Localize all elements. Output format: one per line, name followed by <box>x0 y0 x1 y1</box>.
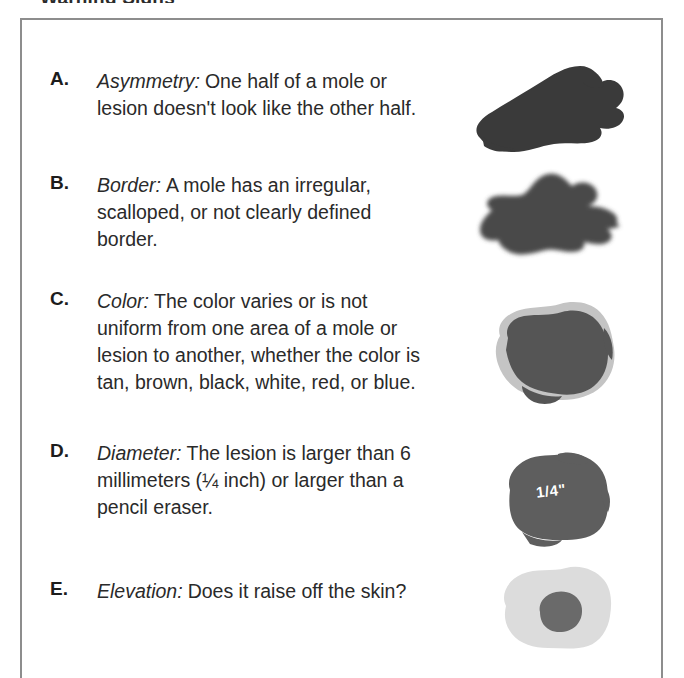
item-text-d: Diameter:The lesion is larger than 6 mil… <box>97 440 427 521</box>
elevated-mole-illustration <box>462 550 662 670</box>
item-letter-b: B. <box>50 172 69 194</box>
large-diameter-mole-illustration: 1/4" <box>462 434 662 554</box>
item-term-a: Asymmetry: <box>97 70 200 92</box>
cropped-page-heading: Warning Signs <box>40 0 640 3</box>
item-term-b: Border: <box>97 174 161 196</box>
item-term-d: Diameter: <box>97 442 182 464</box>
item-text-c: Color:The color varies or is not uniform… <box>97 288 427 396</box>
item-letter-e: E. <box>50 578 68 600</box>
irregular-border-mole-illustration <box>462 158 662 278</box>
item-description-e: Does it raise off the skin? <box>188 580 407 602</box>
diameter-caption: 1/4" <box>535 480 567 501</box>
item-letter-a: A. <box>50 68 69 90</box>
warning-signs-box: A. Asymmetry:One half of a mole or lesio… <box>20 18 663 678</box>
item-letter-d: D. <box>50 440 69 462</box>
asymmetric-mole-illustration <box>462 54 662 174</box>
item-letter-c: C. <box>50 288 69 310</box>
varied-color-mole-illustration <box>462 290 662 410</box>
item-term-c: Color: <box>97 290 149 312</box>
item-text-e: Elevation:Does it raise off the skin? <box>97 578 427 605</box>
item-text-a: Asymmetry:One half of a mole or lesion d… <box>97 68 427 122</box>
item-term-e: Elevation: <box>97 580 183 602</box>
item-text-b: Border:A mole has an irregular, scallope… <box>97 172 427 253</box>
